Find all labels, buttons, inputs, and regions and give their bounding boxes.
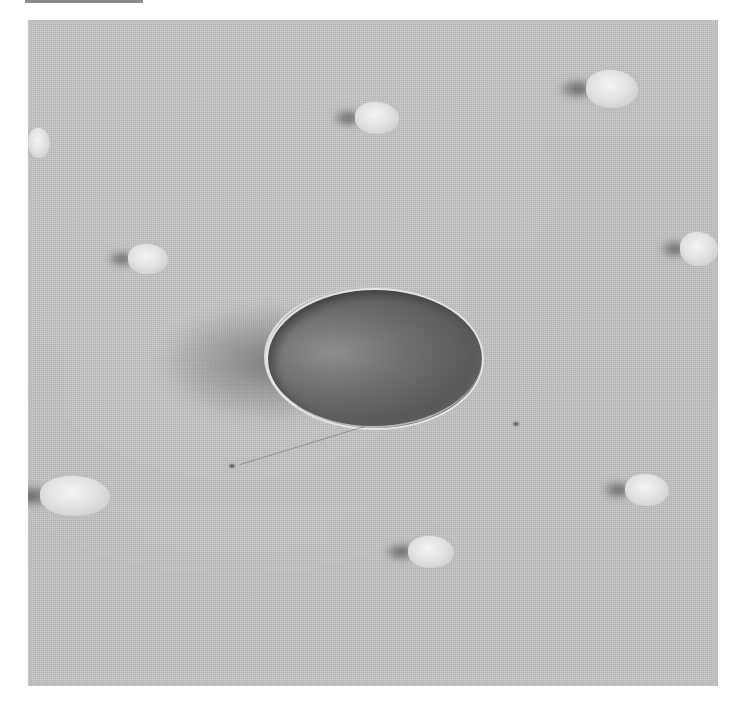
particle-body (680, 232, 718, 266)
particle (355, 102, 399, 134)
particle-body (586, 70, 638, 108)
particle (408, 536, 454, 568)
particle-body (408, 536, 454, 568)
particle (680, 232, 718, 266)
particle (586, 70, 638, 108)
particle-body (40, 476, 110, 516)
particle-body (625, 474, 669, 506)
micrograph-image (28, 20, 718, 686)
particle-body (355, 102, 399, 134)
dark-speck (512, 421, 520, 427)
dark-speck (228, 463, 236, 469)
thin-fiber (240, 426, 365, 465)
particle (625, 474, 669, 506)
top-edge-bar (25, 0, 143, 3)
particle (128, 244, 168, 274)
dish-rim (264, 286, 482, 428)
particle-body (28, 128, 50, 158)
particle-body (128, 244, 168, 274)
particle (28, 128, 50, 158)
particle (40, 476, 110, 516)
